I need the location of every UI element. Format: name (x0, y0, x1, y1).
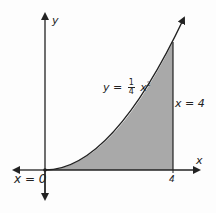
x-axis-label: x (196, 155, 203, 166)
left-bound-label: x = 0 (14, 173, 46, 185)
right-bound-label: x = 4 (175, 98, 205, 109)
fraction-denominator: 4 (128, 88, 135, 96)
y-axis-label: y (52, 15, 59, 26)
curve-equation-prefix: y = (103, 81, 122, 94)
curve-exponent: 2 (147, 80, 151, 87)
area-under-curve-diagram: y x y = 1 4 x2 x = 4 x = 0 4 (0, 0, 216, 213)
x-tick-label-4: 4 (169, 175, 175, 184)
fraction: 1 4 (128, 79, 135, 96)
shaded-area (45, 42, 173, 170)
curve-equation-label: y = 1 4 x2 (103, 79, 151, 96)
